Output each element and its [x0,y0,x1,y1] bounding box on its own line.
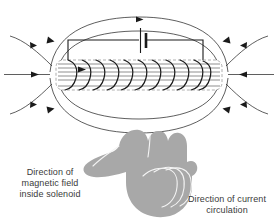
solenoid-body [56,60,222,90]
wire-right [147,40,203,63]
battery-cell [141,28,147,53]
figure-canvas: Direction of magnetic field inside solen… [0,0,277,223]
magnetic-field-caption: Direction of magnetic field inside solen… [4,167,96,200]
wire-left [68,40,139,63]
field-line-left-lower [10,84,52,114]
field-line-right-lower [226,84,268,114]
field-line-right-upper [226,36,268,66]
axis-arrow-right [239,72,247,78]
arrow-top-left [47,37,55,44]
solenoid-outline [56,60,222,90]
arrow-left-fringe-lower [30,102,37,109]
arrow-right-fringe-lower [240,102,247,109]
arrow-top-center [136,17,144,23]
field-line-left-upper [10,36,52,66]
circuit-wires [68,40,203,63]
arrow-left-fringe-upper [30,42,37,49]
axis-arrow-left [31,72,39,78]
current-direction-caption: Direction of current circulation [178,194,276,216]
arrow-right-fringe-upper [240,42,247,49]
arrow-bottom-left [47,107,55,114]
arrow-top-right [223,37,231,44]
arrow-bottom-right [223,107,231,114]
